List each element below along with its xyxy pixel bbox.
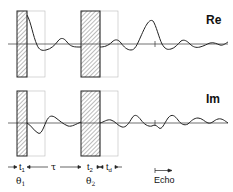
td-label: td — [106, 162, 112, 173]
re-panel: Re — [8, 11, 228, 77]
pulse-2-re — [81, 11, 100, 77]
im-label: Im — [206, 92, 220, 106]
theta2-label: θ2 — [86, 176, 95, 187]
spin-echo-diagram: Re Im t1 τ t2 td θ1 θ2 — [0, 0, 233, 192]
pulse-1-re — [17, 11, 27, 77]
pulse-1-im — [17, 91, 27, 156]
t1-label: t1 — [19, 162, 26, 173]
t2-label: t2 — [87, 162, 94, 173]
re-signal-curve — [27, 15, 228, 50]
free-induction-window-2-im — [100, 91, 118, 156]
im-panel: Im — [8, 91, 228, 156]
re-label: Re — [206, 13, 222, 27]
tau-label: τ — [51, 162, 56, 172]
theta1-label: θ1 — [16, 176, 25, 187]
echo-label: Echo — [154, 175, 175, 185]
pulse-2-im — [81, 91, 100, 156]
free-induction-window-1-im — [27, 91, 45, 156]
im-signal-curve — [27, 115, 228, 133]
